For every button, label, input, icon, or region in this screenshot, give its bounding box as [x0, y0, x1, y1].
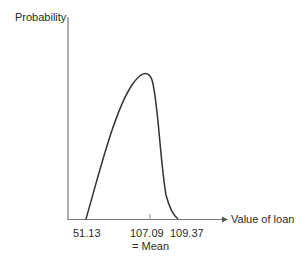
tick-label-min: 51.13 — [73, 227, 101, 240]
tick-label-max: 109.37 — [170, 227, 204, 240]
tick-label-mean: 107.09 — [130, 227, 164, 240]
mean-annotation: = Mean — [132, 240, 169, 253]
y-axis-label: Probability — [15, 11, 66, 24]
x-axis-label: Value of loan — [231, 213, 294, 226]
x-axis-arrow-icon — [222, 217, 228, 223]
distribution-curve — [86, 74, 178, 219]
